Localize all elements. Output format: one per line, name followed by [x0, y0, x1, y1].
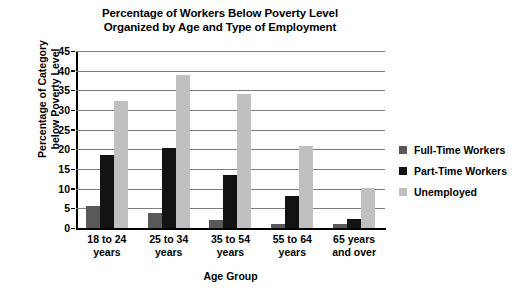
bar	[176, 75, 190, 228]
legend-swatch	[399, 146, 407, 154]
y-axis-tick	[71, 90, 75, 92]
y-axis-tick-label: 25	[46, 125, 70, 135]
y-axis-tick	[71, 169, 75, 171]
bar-group	[200, 51, 262, 228]
bar-chart: Percentage of Workers Below Poverty Leve…	[0, 0, 520, 302]
y-axis-tick	[71, 129, 75, 131]
y-axis-tick-label: 45	[46, 46, 70, 56]
y-axis-tick-label: 40	[46, 66, 70, 76]
bar	[237, 94, 251, 228]
bar	[271, 224, 285, 228]
x-axis-line	[76, 228, 386, 230]
y-axis-tick-label: 5	[46, 203, 70, 213]
chart-title: Percentage of Workers Below Poverty Leve…	[55, 6, 385, 34]
y-axis-tick-label: 0	[46, 223, 70, 233]
y-axis-tick	[71, 149, 75, 151]
y-axis-tick-label: 35	[46, 85, 70, 95]
legend-item[interactable]: Part-Time Workers	[399, 160, 507, 181]
y-axis-tick-label: 15	[46, 164, 70, 174]
y-axis-tick	[71, 188, 75, 190]
bar	[223, 175, 237, 228]
bar-group	[138, 51, 200, 228]
x-axis-tick-label-line: years	[261, 246, 323, 259]
x-axis-tick-label-line: 25 to 34	[138, 233, 200, 246]
legend-item[interactable]: Full-Time Workers	[399, 139, 507, 160]
bar	[100, 155, 114, 228]
x-axis-tick-label: 65 yearsand over	[323, 233, 385, 259]
y-axis-tick	[71, 228, 75, 230]
bar	[285, 196, 299, 228]
x-axis-tick-label: 35 to 54years	[200, 233, 262, 259]
bar	[347, 219, 361, 228]
legend-label: Unemployed	[414, 186, 477, 198]
legend-label: Full-Time Workers	[414, 144, 505, 156]
x-axis-tick-label-line: 18 to 24	[76, 233, 138, 246]
bar-group	[261, 51, 323, 228]
x-axis-tick-label-line: 65 years	[323, 233, 385, 246]
x-axis-tick-label-line: and over	[323, 246, 385, 259]
legend-item[interactable]: Unemployed	[399, 181, 507, 202]
chart-legend: Full-Time WorkersPart-Time WorkersUnempl…	[399, 139, 507, 202]
chart-title-line-1: Percentage of Workers Below Poverty Leve…	[55, 6, 385, 20]
legend-label: Part-Time Workers	[414, 165, 507, 177]
x-axis-tick-label: 25 to 34years	[138, 233, 200, 259]
bar-group	[76, 51, 138, 228]
y-axis-tick-label: 10	[46, 184, 70, 194]
x-axis-tick-label: 55 to 64years	[261, 233, 323, 259]
chart-title-line-2: Organized by Age and Type of Employment	[55, 20, 385, 34]
x-axis-tick-label-line: 55 to 64	[261, 233, 323, 246]
legend-swatch	[399, 188, 407, 196]
x-axis-title: Age Group	[76, 270, 385, 282]
y-axis-tick	[71, 51, 75, 53]
y-axis-tick	[71, 110, 75, 112]
bar-group	[323, 51, 385, 228]
y-axis-tick-label: 30	[46, 105, 70, 115]
bar	[162, 148, 176, 228]
plot-area	[76, 51, 385, 228]
x-axis-tick-label-line: years	[138, 246, 200, 259]
x-axis-tick-label-line: 35 to 54	[200, 233, 262, 246]
x-axis-tick-label: 18 to 24years	[76, 233, 138, 259]
bar	[361, 188, 375, 229]
y-axis-tick-label: 20	[46, 144, 70, 154]
bar	[86, 206, 100, 228]
bar	[114, 101, 128, 228]
y-axis-tick	[71, 208, 75, 210]
y-axis-tick-labels: 051015202530354045	[44, 51, 70, 229]
bar	[333, 224, 347, 228]
bar	[299, 146, 313, 228]
x-axis-tick-label-line: years	[200, 246, 262, 259]
y-axis-tick	[71, 70, 75, 72]
bar	[148, 213, 162, 228]
legend-swatch	[399, 167, 407, 175]
x-axis-tick-label-line: years	[76, 246, 138, 259]
bar	[209, 220, 223, 228]
